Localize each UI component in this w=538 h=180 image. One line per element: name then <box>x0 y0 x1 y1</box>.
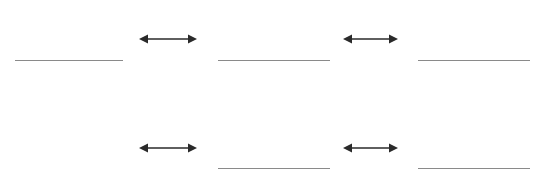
double-headed-transition-arrow <box>343 144 398 153</box>
level-lines-group <box>15 61 530 169</box>
double-headed-transition-arrow <box>139 35 197 44</box>
arrow-head-right-icon <box>389 144 398 153</box>
arrow-head-left-icon <box>343 35 352 44</box>
arrow-head-right-icon <box>188 144 197 153</box>
arrow-head-left-icon <box>343 144 352 153</box>
arrow-head-right-icon <box>188 35 197 44</box>
diagram-svg <box>0 0 538 180</box>
diagram-canvas <box>0 0 538 180</box>
double-headed-transition-arrow <box>139 144 197 153</box>
arrow-head-right-icon <box>389 35 398 44</box>
arrow-head-left-icon <box>139 35 148 44</box>
double-headed-transition-arrow <box>343 35 398 44</box>
transition-arrows-group <box>139 35 398 153</box>
arrow-head-left-icon <box>139 144 148 153</box>
